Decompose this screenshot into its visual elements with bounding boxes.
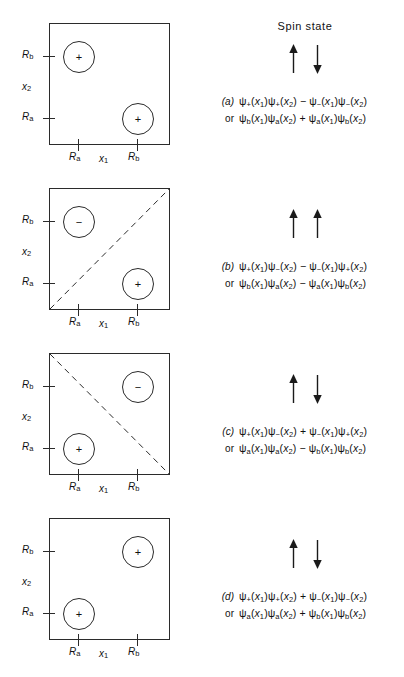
x-axis-title-a: x1 <box>99 153 108 165</box>
y-tick-ra-c <box>43 448 55 449</box>
panel-d: ++RbRax2RaRbx1(d)ψ+(x1)ψ+(x2) + ψ−(x1)ψ−… <box>0 495 404 660</box>
spin-arrows-b <box>240 209 370 243</box>
x-tick-rb-b <box>137 304 138 316</box>
y-axis-title-a: x2 <box>22 81 31 93</box>
y-tick-rb-a <box>43 56 55 57</box>
y-tick-ra-b <box>43 283 55 284</box>
equation-row-2-c: orψa(x1)ψa(x2) − ψb(x1)ψb(x2) <box>208 443 404 455</box>
equation-row-2-b: orψb(x1)ψa(x2) − ψa(x1)ψb(x2) <box>208 278 404 290</box>
equation-2-a: ψb(x1)ψa(x2) + ψa(x1)ψb(x2) <box>239 113 366 125</box>
x-tick-ra-a <box>78 139 79 151</box>
equations-d: (d)ψ+(x1)ψ+(x2) + ψ−(x1)ψ−(x2)orψa(x1)ψa… <box>208 591 404 625</box>
equations-c: (c)ψ+(x1)ψ−(x2) + ψ−(x1)ψ+(x2)orψa(x1)ψa… <box>208 426 404 460</box>
equations-b: (b)ψ+(x1)ψ−(x2) − ψ−(x1)ψ+(x2)orψb(x1)ψa… <box>208 261 404 295</box>
lobe-b-1: − <box>63 206 95 238</box>
equations-a: (a)ψ+(x1)ψ+(x2) − ψ−(x1)ψ−(x2)orψb(x1)ψa… <box>208 96 404 130</box>
y-axis-label-ra-c: Ra <box>22 441 33 453</box>
y-axis-label-ra-b: Ra <box>22 276 33 288</box>
equation-row-2-d: orψa(x1)ψa(x2) + ψb(x1)ψb(x2) <box>208 608 404 620</box>
y-tick-rb-c <box>43 386 55 387</box>
x-tick-rb-d <box>137 634 138 646</box>
spin-state-figure: Spin state ++RbRax2RaRbx1(a)ψ+(x1)ψ+(x2)… <box>0 0 404 677</box>
spin-arrows-c <box>240 374 370 408</box>
spin-arrows-a <box>240 44 370 78</box>
spin-arrow-down-c-2 <box>312 374 323 408</box>
y-axis-label-rb-d: Rb <box>22 544 33 556</box>
panel-c: −+RbRax2RaRbx1(c)ψ+(x1)ψ−(x2) + ψ−(x1)ψ+… <box>0 330 404 495</box>
equation-1-c: ψ+(x1)ψ−(x2) + ψ−(x1)ψ+(x2) <box>239 426 367 438</box>
panel-a: ++RbRax2RaRbx1(a)ψ+(x1)ψ+(x2) − ψ−(x1)ψ−… <box>0 0 404 165</box>
equation-1-d: ψ+(x1)ψ+(x2) + ψ−(x1)ψ−(x2) <box>239 591 367 603</box>
x-axis-label-rb-d: Rb <box>128 646 139 658</box>
x-axis-label-ra-d: Ra <box>69 646 80 658</box>
spin-arrow-up-c-1 <box>288 374 299 408</box>
x-axis-label-ra-b: Ra <box>69 316 80 328</box>
x-tick-ra-d <box>78 634 79 646</box>
equation-row-2-a: orψb(x1)ψa(x2) + ψa(x1)ψb(x2) <box>208 113 404 125</box>
spin-arrow-up-d-1 <box>288 539 299 573</box>
or-label-b: or <box>208 279 239 289</box>
plot-box-c: −+ <box>49 353 170 475</box>
spin-arrows-d <box>240 539 370 573</box>
lobe-c-1: − <box>122 371 154 403</box>
spin-arrow-down-d-2 <box>312 539 323 573</box>
equation-row-1-d: (d)ψ+(x1)ψ+(x2) + ψ−(x1)ψ−(x2) <box>208 591 404 603</box>
spin-arrow-up-b-1 <box>288 209 299 243</box>
x-axis-label-rb-b: Rb <box>128 316 139 328</box>
equation-2-d: ψa(x1)ψa(x2) + ψb(x1)ψb(x2) <box>239 608 366 620</box>
lobe-a-2: + <box>122 103 154 135</box>
x-axis-label-ra-c: Ra <box>69 481 80 493</box>
panel-b: −+RbRax2RaRbx1(b)ψ+(x1)ψ−(x2) − ψ−(x1)ψ+… <box>0 165 404 330</box>
or-label-c: or <box>208 444 239 454</box>
lobe-d-1: + <box>122 536 154 568</box>
equation-row-1-c: (c)ψ+(x1)ψ−(x2) + ψ−(x1)ψ+(x2) <box>208 426 404 438</box>
x-axis-title-c: x1 <box>99 483 108 495</box>
or-label-a: or <box>208 114 239 124</box>
x-axis-label-ra-a: Ra <box>69 151 80 163</box>
x-axis-title-d: x1 <box>99 648 108 660</box>
plot-box-b: −+ <box>49 188 170 310</box>
equation-1-a: ψ+(x1)ψ+(x2) − ψ−(x1)ψ−(x2) <box>239 96 367 108</box>
panel-label-d: (d) <box>208 592 239 602</box>
x-axis-label-rb-a: Rb <box>128 151 139 163</box>
y-tick-rb-d <box>43 551 55 552</box>
panel-label-a: (a) <box>208 97 239 107</box>
y-axis-title-d: x2 <box>22 576 31 588</box>
equation-2-c: ψa(x1)ψa(x2) − ψb(x1)ψb(x2) <box>239 443 366 455</box>
y-tick-rb-b <box>43 221 55 222</box>
equation-row-1-b: (b)ψ+(x1)ψ−(x2) − ψ−(x1)ψ+(x2) <box>208 261 404 273</box>
y-tick-ra-d <box>43 613 55 614</box>
panel-label-c: (c) <box>208 427 239 437</box>
spin-arrow-up-a-1 <box>288 44 299 78</box>
lobe-d-2: + <box>63 598 95 630</box>
y-axis-title-b: x2 <box>22 246 31 258</box>
lobe-a-1: + <box>63 41 95 73</box>
spin-arrow-down-a-2 <box>312 44 323 78</box>
equation-row-1-a: (a)ψ+(x1)ψ+(x2) − ψ−(x1)ψ−(x2) <box>208 96 404 108</box>
plot-box-a: ++ <box>49 23 170 145</box>
or-label-d: or <box>208 609 239 619</box>
y-axis-label-rb-a: Rb <box>22 49 33 61</box>
y-axis-label-rb-b: Rb <box>22 214 33 226</box>
x-axis-label-rb-c: Rb <box>128 481 139 493</box>
panel-label-b: (b) <box>208 262 239 272</box>
x-tick-ra-c <box>78 469 79 481</box>
y-axis-title-c: x2 <box>22 411 31 423</box>
y-tick-ra-a <box>43 118 55 119</box>
lobe-c-2: + <box>63 433 95 465</box>
x-tick-ra-b <box>78 304 79 316</box>
x-tick-rb-c <box>137 469 138 481</box>
y-axis-label-ra-a: Ra <box>22 111 33 123</box>
equation-1-b: ψ+(x1)ψ−(x2) − ψ−(x1)ψ+(x2) <box>239 261 367 273</box>
x-axis-title-b: x1 <box>99 318 108 330</box>
x-tick-rb-a <box>137 139 138 151</box>
y-axis-label-ra-d: Ra <box>22 606 33 618</box>
lobe-b-2: + <box>122 268 154 300</box>
equation-2-b: ψb(x1)ψa(x2) − ψa(x1)ψb(x2) <box>239 278 366 290</box>
y-axis-label-rb-c: Rb <box>22 379 33 391</box>
plot-box-d: ++ <box>49 518 170 640</box>
spin-arrow-up-b-2 <box>312 209 323 243</box>
